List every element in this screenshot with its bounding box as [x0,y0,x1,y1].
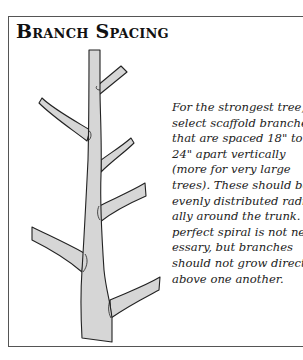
branch-1 [97,66,127,94]
caption-line: that are spaced 18" to [172,131,302,147]
caption-line: evenly distributed radi- [172,194,302,210]
branch-4 [99,183,146,222]
branch-6 [110,277,160,318]
caption-line: (more for very large [172,162,302,178]
caption-line: ally around the trunk. A [172,209,302,225]
branch-2 [39,98,90,141]
trunk [81,50,112,342]
caption-line: select scaffold branches [172,116,302,132]
branch-3 [101,138,134,172]
caption-line: perfect spiral is not nec- [172,225,302,241]
branch-5 [32,227,84,272]
caption-line: 24" apart vertically [172,147,302,163]
caption-line: trees). These should be [172,178,302,194]
caption-text: For the strongest tree, select scaffold … [172,100,302,287]
caption-line: above one another. [172,272,302,288]
caption-line: should not grow directly [172,256,302,272]
caption-line: essary, but branches [172,240,302,256]
caption-line: For the strongest tree, [172,100,302,116]
